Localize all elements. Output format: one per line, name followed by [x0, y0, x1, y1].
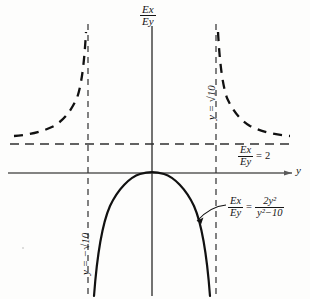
- asymptote-label-value: 2: [265, 151, 270, 162]
- asymptote-label-operator: =: [256, 151, 262, 162]
- asymptote-label-denominator: Ey: [238, 157, 253, 168]
- curve-eq-lhs-denominator: Ey: [228, 208, 243, 219]
- curve-right-branch: [218, 32, 290, 136]
- horizontal-axis-label: y: [296, 165, 301, 176]
- scan-artifact: [22, 247, 24, 249]
- curve-equation-label: Ex Ey = 2y² y²−10: [228, 196, 284, 218]
- figure-canvas: Ex Ey Ex Ey = 2 y y = √10 y = −√10 Ex Ey…: [0, 0, 310, 299]
- asymptote-label-numerator: Ex: [238, 145, 253, 157]
- curve-left-branch: [14, 32, 86, 136]
- curve-eq-rhs-denominator: y²−10: [255, 208, 284, 219]
- horizontal-axis-arrowhead: [284, 170, 292, 175]
- vertical-asymptote-negative-label: y = −√10: [80, 233, 91, 275]
- curve-eq-operator: =: [246, 202, 252, 213]
- equation-leader-arrow: [197, 205, 226, 221]
- horizontal-asymptote-label: Ex Ey = 2: [238, 145, 270, 167]
- axis-title-denominator: Ey: [140, 16, 156, 27]
- curve-eq-lhs-numerator: Ex: [228, 196, 243, 208]
- vertical-axis-title: Ex Ey: [140, 4, 156, 27]
- vertical-asymptote-positive-label: y = √10: [206, 85, 217, 120]
- curve-eq-rhs-numerator: 2y²: [255, 196, 284, 208]
